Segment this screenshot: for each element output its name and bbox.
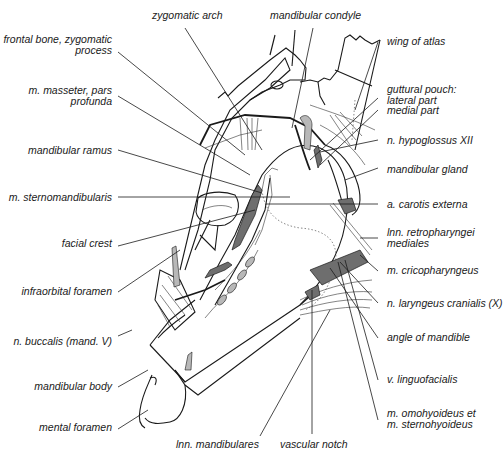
label-line: a. carotis externa (387, 199, 468, 210)
label-line: guttural pouch: (387, 84, 456, 95)
label-line: m. sternomandibularis (9, 192, 112, 203)
label-guttural-pouch: guttural pouch: lateral part medial part (387, 84, 456, 116)
label-line: mediales (387, 238, 475, 249)
leader-lines (118, 28, 378, 436)
label-mental-foramen: mental foramen (39, 422, 112, 433)
label-line: process (3, 45, 112, 56)
label-zygomatic-arch: zygomatic arch (152, 10, 223, 21)
label-line: n. hypoglossus XII (387, 135, 473, 146)
label-m-omohyoideus: m. omohyoideus et m. sternohyoideus (387, 408, 476, 430)
label-line: mandibular gland (387, 164, 468, 175)
skull-outline (180, 30, 380, 270)
label-line: n. buccalis (mand. V) (13, 336, 112, 347)
label-lnn-mandibulares: lnn. mandibulares (176, 439, 259, 450)
label-angle-of-mandible: angle of mandible (387, 332, 470, 343)
label-mandibular-condyle: mandibular condyle (270, 10, 361, 21)
label-wing-of-atlas: wing of atlas (387, 36, 445, 47)
label-line: medial part (387, 105, 456, 116)
label-line: wing of atlas (387, 36, 445, 47)
label-a-carotis-externa: a. carotis externa (387, 199, 468, 210)
face-muscles (155, 192, 238, 330)
label-n-hypoglossus: n. hypoglossus XII (387, 135, 473, 146)
label-line: mandibular ramus (28, 145, 112, 156)
label-line: vascular notch (280, 439, 348, 450)
label-line: lnn. mandibulares (176, 439, 259, 450)
label-line: v. linguofacialis (387, 374, 457, 385)
label-n-laryngeus: n. laryngeus cranialis (X) (387, 298, 503, 309)
label-masseter: m. masseter, pars profunda (29, 85, 112, 107)
label-line: facial crest (62, 238, 112, 249)
label-line: angle of mandible (387, 332, 470, 343)
label-mandibular-ramus: mandibular ramus (28, 145, 112, 156)
label-line: mental foramen (39, 422, 112, 433)
label-facial-crest: facial crest (62, 238, 112, 249)
label-line: m. sternohyoideus (387, 419, 476, 430)
label-sternomandibularis: m. sternomandibularis (9, 192, 112, 203)
label-line: m. cricopharyngeus (387, 265, 479, 276)
label-v-linguofacialis: v. linguofacialis (387, 374, 457, 385)
label-vascular-notch: vascular notch (280, 439, 348, 450)
label-line: zygomatic arch (152, 10, 223, 21)
label-line: mandibular body (34, 381, 112, 392)
label-line: profunda (29, 96, 112, 107)
label-lnn-retropharyngei: lnn. retropharyngei mediales (387, 227, 475, 249)
label-line: infraorbital foramen (22, 286, 112, 297)
label-n-buccalis: n. buccalis (mand. V) (13, 336, 112, 347)
label-m-cricopharyngeus: m. cricopharyngeus (387, 265, 479, 276)
label-line: mandibular condyle (270, 10, 361, 21)
label-infraorbital-foramen: infraorbital foramen (22, 286, 112, 297)
label-mandibular-body: mandibular body (34, 381, 112, 392)
label-frontal-bone: frontal bone, zygomatic process (3, 34, 112, 56)
label-mandibular-gland: mandibular gland (387, 164, 468, 175)
label-line: n. laryngeus cranialis (X) (387, 298, 503, 309)
